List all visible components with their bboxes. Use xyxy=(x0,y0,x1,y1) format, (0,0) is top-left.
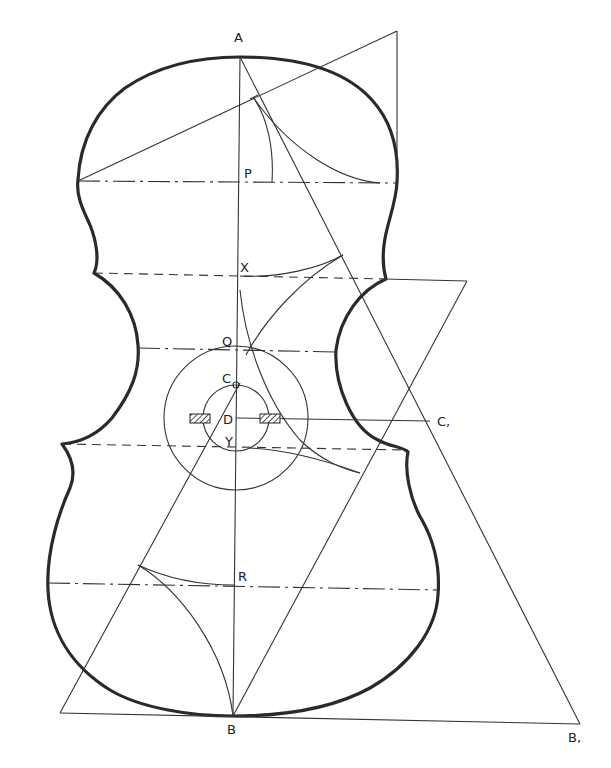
upper-diagonal-line xyxy=(78,31,397,181)
right-hatch-marker xyxy=(260,414,280,423)
arc-center-sweep xyxy=(240,290,360,473)
lower-bout-width-line-r xyxy=(48,583,438,590)
label-r: R xyxy=(238,569,247,584)
violin-body-outline xyxy=(48,57,439,716)
label-p: P xyxy=(244,166,252,181)
arc-r-lower xyxy=(138,565,233,716)
left-hatch-marker xyxy=(190,414,210,423)
label-q: Q xyxy=(222,334,232,349)
label-c: C xyxy=(222,371,231,386)
left-diagonal-line xyxy=(60,383,240,713)
label-a: A xyxy=(234,30,243,45)
label-y: Y xyxy=(224,434,233,449)
arc-x-upper xyxy=(240,255,343,276)
upper-bout-width-line-p xyxy=(78,181,397,183)
label-b: B xyxy=(227,722,236,737)
a-to-b1-line xyxy=(240,57,580,724)
b-diagonal-line xyxy=(233,281,467,716)
label-c1: C, xyxy=(437,414,450,429)
label-b1: B, xyxy=(568,730,581,745)
violin-construction-diagram: A P X Q C D Y C, R B B, xyxy=(0,0,611,768)
label-d: D xyxy=(223,412,233,427)
arc-y-lower xyxy=(250,448,360,473)
upper-corner-horizontal xyxy=(384,279,467,281)
base-line xyxy=(60,713,580,724)
lower-corner-line-y xyxy=(62,444,408,450)
label-x: X xyxy=(240,260,249,275)
arc-q-sweep xyxy=(246,255,343,355)
